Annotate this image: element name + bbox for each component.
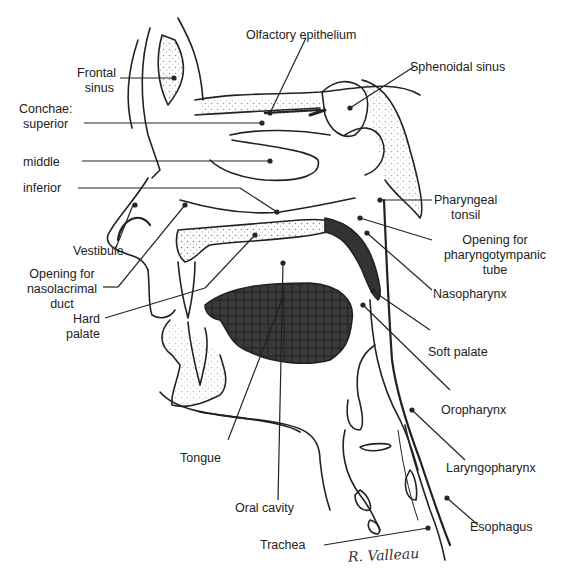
middle-concha: [210, 140, 318, 180]
label-pharyngotympanic-line1: Opening for: [430, 233, 560, 247]
label-oral-cavity: Oral cavity: [235, 501, 294, 515]
upper-incisor: [178, 262, 195, 318]
label-frontal-sinus-line1: Frontal: [74, 66, 116, 80]
label-concha-middle: middle: [23, 155, 60, 169]
label-pharyngotympanic-line2: pharyngotympanic: [430, 248, 560, 262]
label-vestibule: Vestibule: [73, 244, 124, 258]
label-hard-palate-line2: palate: [50, 327, 100, 341]
label-frontal-sinus-line2: sinus: [74, 81, 114, 95]
forehead-outline: [128, 40, 138, 128]
label-concha-superior: superior: [23, 117, 68, 131]
label-esophagus: Esophagus: [470, 520, 533, 534]
label-soft-palate: Soft palate: [428, 345, 488, 359]
mandible: [162, 320, 226, 406]
label-nasolacrimal-line2: nasolacrimal: [22, 282, 102, 296]
hyoid: [360, 444, 391, 451]
label-nasopharynx: Nasopharynx: [433, 287, 507, 301]
label-nasolacrimal-line1: Opening for: [22, 267, 102, 281]
label-olfactory-epithelium: Olfactory epithelium: [246, 28, 356, 42]
hard-palate-shape: [176, 219, 336, 262]
label-nasolacrimal-line3: duct: [22, 297, 102, 311]
label-laryngopharynx: Laryngopharynx: [446, 461, 536, 475]
label-concha-inferior: inferior: [23, 181, 61, 195]
label-oropharynx: Oropharynx: [441, 403, 506, 417]
label-tongue: Tongue: [180, 451, 221, 465]
label-sphenoidal-sinus: Sphenoidal sinus: [410, 60, 505, 74]
label-conchae: Conchae:: [19, 102, 73, 116]
superior-concha: [230, 130, 330, 135]
anatomy-figure: Olfactory epithelium Frontal sinus Sphen…: [0, 0, 562, 579]
epiglottis: [347, 345, 375, 430]
label-hard-palate-line1: Hard: [50, 312, 100, 326]
tongue-shape: [205, 283, 352, 363]
label-pharyngeal-tonsil-line2: tonsil: [451, 208, 480, 222]
label-pharyngotympanic-line3: tube: [430, 263, 560, 277]
label-trachea: Trachea: [260, 538, 305, 552]
label-pharyngeal-tonsil-line1: Pharyngeal: [434, 193, 497, 207]
